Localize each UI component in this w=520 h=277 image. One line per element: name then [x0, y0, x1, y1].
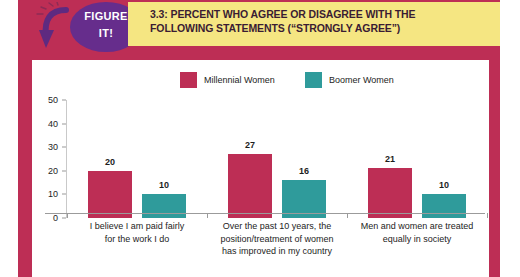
- figure-header-band: FIGURE IT! 3.3: PERCENT WHO AGREE OR DIS…: [18, 0, 500, 60]
- figure-title: 3.3: PERCENT WHO AGREE OR DISAGREE WITH …: [150, 7, 500, 35]
- bar-millennial-group-2: [228, 154, 272, 218]
- category-label-line: for the work I do: [67, 233, 207, 246]
- y-axis-tick-label: 30: [48, 142, 58, 152]
- bar-series-group: 201027162110: [67, 100, 487, 218]
- x-axis-separator: [487, 213, 488, 218]
- figure-title-line-2: FOLLOWING STATEMENTS (“STRONGLY AGREE”): [150, 21, 500, 35]
- bar-value-label: 16: [299, 166, 309, 176]
- x-axis-separator: [67, 213, 68, 218]
- legend-label-millennial-women: Millennial Women: [204, 75, 275, 85]
- legend-item-millennial-women: Millennial Women: [180, 72, 275, 88]
- bar-value-label: 21: [385, 154, 395, 164]
- y-axis-tick-label: 40: [48, 119, 58, 129]
- category-label-2: Over the past 10 years, theposition/trea…: [207, 220, 347, 258]
- x-axis-category-labels: I believe I am paid fairlyfor the work I…: [32, 220, 489, 275]
- bar-millennial-group-1: [88, 171, 132, 218]
- bar-boomer-group-1: [142, 194, 186, 218]
- x-axis-separator: [207, 213, 208, 218]
- bar-value-label: 20: [105, 157, 115, 167]
- category-label-line: I believe I am paid fairly: [67, 220, 207, 233]
- x-axis-line: [45, 213, 485, 214]
- figure-title-line-1: 3.3: PERCENT WHO AGREE OR DISAGREE WITH …: [150, 8, 415, 20]
- legend-swatch-millennial-women: [180, 72, 197, 88]
- legend-label-boomer-women: Boomer Women: [329, 75, 394, 85]
- category-label-1: I believe I am paid fairlyfor the work I…: [67, 220, 207, 245]
- category-label-line: Over the past 10 years, the: [207, 220, 347, 233]
- y-axis-tick-label: 50: [48, 95, 58, 105]
- page-margin-left: [0, 0, 18, 277]
- bar-value-label: 27: [245, 140, 255, 150]
- page-margin-right: [500, 0, 520, 277]
- category-label-3: Men and women are treatedequally in soci…: [347, 220, 487, 245]
- bar-boomer-group-3: [422, 194, 466, 218]
- legend-item-boomer-women: Boomer Women: [305, 72, 394, 88]
- plot-area: 01020304050 201027162110: [32, 100, 489, 218]
- category-label-line: position/treatment of women: [207, 233, 347, 246]
- category-label-line: has improved in my country: [207, 245, 347, 258]
- y-axis-tick-label: 10: [48, 189, 58, 199]
- figure-page: FIGURE IT! 3.3: PERCENT WHO AGREE OR DIS…: [0, 0, 520, 277]
- category-label-line: equally in society: [347, 233, 487, 246]
- x-axis-separator: [347, 213, 348, 218]
- bar-value-label: 10: [439, 180, 449, 190]
- category-label-line: Men and women are treated: [347, 220, 487, 233]
- legend-swatch-boomer-women: [305, 72, 322, 88]
- chart-area: Millennial Women Boomer Women 0102030405…: [32, 60, 489, 277]
- bar-value-label: 10: [159, 180, 169, 190]
- chart-legend: Millennial Women Boomer Women: [180, 72, 394, 88]
- y-axis-tick-label: 20: [48, 166, 58, 176]
- bar-millennial-group-3: [368, 168, 412, 218]
- y-axis: 01020304050: [32, 100, 66, 218]
